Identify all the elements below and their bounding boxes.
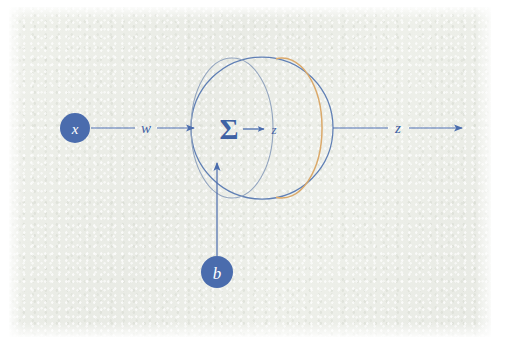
weight-label: w [141, 120, 151, 136]
weight-edge: w [91, 120, 194, 136]
internal-preactivation-edge: z [243, 122, 277, 137]
neuron-body [191, 57, 333, 199]
output-edge: z [333, 120, 462, 136]
input-node[interactable]: x [60, 113, 90, 143]
bias-node-label: b [213, 264, 222, 283]
summation-symbol: Σ [220, 113, 239, 145]
activation-surface-arc [276, 58, 322, 198]
sphere-outline [191, 57, 333, 199]
neuron-diagram: x w Σ z b z [0, 0, 510, 346]
figure-root: x w Σ z b z [0, 0, 510, 346]
input-node-label: x [71, 121, 79, 137]
bias-node[interactable]: b [201, 256, 233, 288]
output-label: z [394, 120, 401, 136]
preactivation-label: z [270, 122, 276, 137]
